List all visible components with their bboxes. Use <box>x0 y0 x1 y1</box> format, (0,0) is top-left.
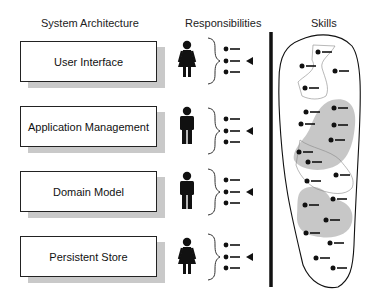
responsibility-list <box>208 234 253 280</box>
responsibility-list <box>208 169 253 215</box>
person-icon-male <box>180 107 194 144</box>
responsibility-list <box>208 38 253 84</box>
person-icon-female <box>178 238 196 274</box>
person-icon-female <box>178 41 196 77</box>
diagram-graphics <box>0 0 377 304</box>
responsibility-list <box>208 108 253 154</box>
person-icon-male <box>180 172 194 209</box>
